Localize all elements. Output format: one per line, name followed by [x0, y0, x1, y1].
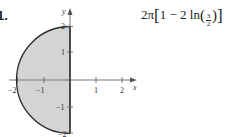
y-tick-label: 1	[61, 48, 65, 57]
y-tick-label: 2	[61, 22, 65, 31]
y-axis-label: y	[61, 7, 66, 16]
y-tick-label: −2	[58, 130, 67, 137]
x-axis-arrow-icon	[130, 78, 137, 83]
x-tick-label: −2	[8, 86, 17, 95]
y-tick-label: −1	[56, 103, 65, 112]
x-axis-label: x	[132, 83, 137, 92]
x-tick-label: −1	[36, 86, 45, 95]
x-tick-label: 2	[120, 86, 124, 95]
x-tick-label: 1	[94, 86, 98, 95]
y-axis-arrow-icon	[68, 8, 73, 15]
region-graph: −2 −1 1 2 x y 2 1 −1 −2	[0, 0, 227, 137]
